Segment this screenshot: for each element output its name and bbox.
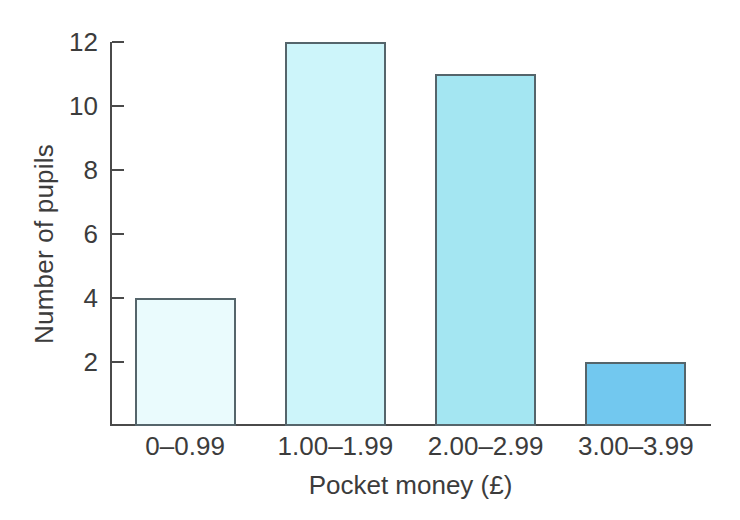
bar-chart: Number of pupils 24681012 0–0.991.00–1.9… xyxy=(0,0,740,520)
y-axis-tick-label: 6 xyxy=(52,221,98,247)
plot-area xyxy=(110,42,711,426)
bar xyxy=(585,362,686,426)
bar xyxy=(435,74,536,426)
x-axis-tick-label: 3.00–3.99 xyxy=(578,432,694,461)
x-axis-tick-label: 0–0.99 xyxy=(145,432,225,461)
y-axis-tick-label: 8 xyxy=(52,157,98,183)
x-axis-tick-label: 1.00–1.99 xyxy=(278,432,394,461)
y-axis-tick-labels: 24681012 xyxy=(52,0,98,520)
x-axis-tick-labels: 0–0.991.00–1.992.00–2.993.00–3.99 xyxy=(110,432,711,468)
y-axis-tick-label: 12 xyxy=(52,29,98,55)
bar xyxy=(135,298,236,426)
x-axis-title: Pocket money (£) xyxy=(110,470,711,501)
y-axis-tick-label: 4 xyxy=(52,285,98,311)
y-axis-tick-label: 2 xyxy=(52,349,98,375)
y-axis-tick-label: 10 xyxy=(52,93,98,119)
x-axis-tick-label: 2.00–2.99 xyxy=(428,432,544,461)
bar xyxy=(285,42,386,426)
